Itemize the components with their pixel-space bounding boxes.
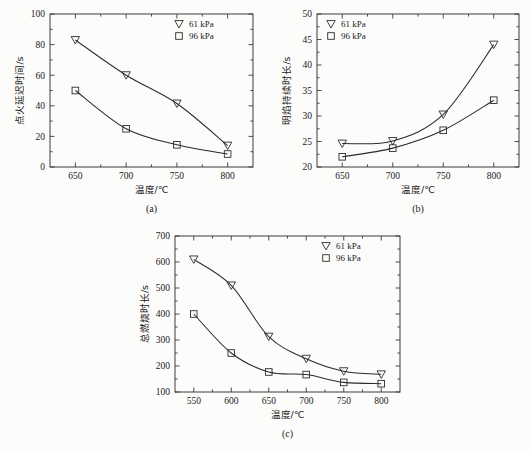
y-tick-label: 200: [156, 361, 171, 371]
y-tick-label: 40: [303, 60, 313, 70]
y-tick-label: 0: [40, 162, 45, 172]
trend-curve-series-1: [342, 45, 494, 144]
plot-frame: [175, 236, 400, 392]
x-tick-label: 750: [436, 171, 451, 181]
y-tick-label: 40: [36, 101, 46, 111]
y-tick-label: 100: [156, 387, 171, 397]
subplot-c-canvas: 550600650700750800100200300400500600700温…: [120, 220, 412, 450]
y-tick-label: 500: [156, 283, 171, 293]
legend-label-2: 96 kPa: [189, 31, 214, 41]
legend-square-marker: [176, 33, 183, 40]
x-axis-title: 温度/℃: [271, 409, 305, 420]
trend-curve-series-1: [75, 40, 227, 146]
legend-label-2: 96 kPa: [341, 31, 366, 41]
x-axis-title: 温度/℃: [135, 184, 169, 195]
y-tick-label: 45: [303, 35, 313, 45]
x-tick-label: 800: [374, 396, 389, 406]
subplot-c: 550600650700750800100200300400500600700温…: [120, 220, 412, 450]
y-axis-title: 点火延迟时间/s: [14, 56, 25, 124]
subplot-b: 65070075080020253035404550温度/℃明焰持续时长/s(b…: [265, 0, 531, 222]
y-axis-title: 总燃烧时长/s: [139, 285, 150, 343]
subplot-a: 650700750800020406080100温度/℃点火延迟时间/s(a)6…: [0, 0, 265, 222]
trend-curve-series-2: [75, 91, 227, 155]
legend-square-marker: [328, 33, 335, 40]
trend-curve-series-2: [194, 314, 382, 384]
y-tick-label: 400: [156, 309, 171, 319]
subplot-caption: (c): [282, 428, 293, 440]
legend-triangle-down-marker: [327, 21, 335, 28]
x-axis-title: 温度/℃: [401, 184, 435, 195]
x-tick-label: 800: [221, 171, 236, 181]
y-tick-label: 20: [303, 162, 313, 172]
subplot-caption: (a): [146, 203, 157, 215]
subplot-b-canvas: 65070075080020253035404550温度/℃明焰持续时长/s(b…: [265, 0, 531, 222]
x-tick-label: 650: [262, 396, 277, 406]
y-tick-label: 50: [303, 9, 313, 19]
legend-square-marker: [323, 255, 330, 262]
y-tick-label: 20: [36, 132, 46, 142]
y-tick-label: 300: [156, 335, 171, 345]
x-tick-label: 750: [170, 171, 185, 181]
y-tick-label: 25: [303, 137, 313, 147]
trend-curve-series-2: [342, 100, 494, 157]
y-tick-label: 100: [31, 9, 46, 19]
x-tick-label: 550: [187, 396, 202, 406]
trend-curve-series-1: [194, 259, 382, 374]
legend-triangle-down-marker: [175, 21, 183, 28]
x-tick-label: 800: [487, 171, 502, 181]
y-tick-label: 700: [156, 231, 171, 241]
x-tick-label: 650: [68, 171, 83, 181]
square-point: [490, 97, 497, 104]
figure-container: 650700750800020406080100温度/℃点火延迟时间/s(a)6…: [0, 0, 531, 450]
x-tick-label: 750: [337, 396, 352, 406]
x-tick-label: 600: [224, 396, 239, 406]
legend-label-1: 61 kPa: [336, 241, 361, 251]
y-tick-label: 600: [156, 257, 171, 267]
x-tick-label: 700: [119, 171, 134, 181]
plot-frame: [50, 14, 253, 167]
subplot-caption: (b): [412, 203, 424, 215]
legend-label-1: 61 kPa: [341, 19, 366, 29]
x-tick-label: 700: [299, 396, 314, 406]
y-tick-label: 30: [303, 111, 313, 121]
x-tick-label: 700: [386, 171, 401, 181]
x-tick-label: 650: [335, 171, 350, 181]
legend-label-2: 96 kPa: [336, 253, 361, 263]
y-axis-title: 明焰持续时长/s: [281, 56, 292, 124]
y-tick-label: 35: [303, 86, 313, 96]
y-tick-label: 60: [36, 71, 46, 81]
y-tick-label: 80: [36, 40, 46, 50]
legend-triangle-down-marker: [322, 243, 330, 250]
subplot-a-canvas: 650700750800020406080100温度/℃点火延迟时间/s(a)6…: [0, 0, 265, 222]
legend-label-1: 61 kPa: [189, 19, 214, 29]
